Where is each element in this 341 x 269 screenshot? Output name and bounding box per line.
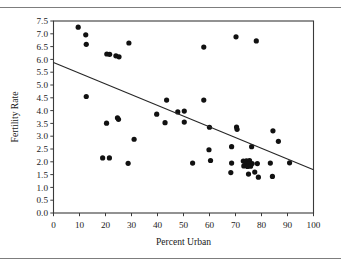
data-point [76, 25, 81, 30]
bottom-horizontal-rule [0, 258, 341, 259]
data-point [229, 160, 234, 165]
data-point [276, 139, 281, 144]
x-tick-label: 100 [307, 220, 321, 230]
data-point [246, 171, 251, 176]
data-point [116, 117, 121, 122]
data-point [104, 121, 109, 126]
data-point [233, 34, 238, 39]
x-tick-label: 40 [153, 220, 163, 230]
data-point [84, 94, 89, 99]
plot-frame [54, 21, 314, 213]
data-points-group [76, 25, 293, 180]
data-point [234, 127, 239, 132]
y-tick-label: 7.0 [37, 29, 49, 39]
data-point [107, 52, 112, 57]
y-tick-label: 4.0 [37, 106, 49, 116]
data-point [162, 120, 167, 125]
data-point [268, 160, 273, 165]
regression-line [54, 62, 314, 169]
y-tick-label: 2.5 [37, 144, 49, 154]
data-point [229, 144, 234, 149]
y-tick-label: 7.5 [37, 16, 49, 26]
plot-axes [50, 21, 313, 216]
x-tick-label: 70 [231, 220, 241, 230]
data-point [206, 147, 211, 152]
y-tick-label: 3.5 [37, 119, 49, 129]
y-tick-label: 1.0 [37, 183, 49, 193]
data-point [182, 109, 187, 114]
data-point [182, 120, 187, 125]
y-tick-label: 2.0 [37, 157, 49, 167]
data-point [201, 45, 206, 50]
data-point [270, 174, 275, 179]
data-point [107, 155, 112, 160]
y-tick-label: 0.5 [37, 195, 49, 205]
data-point [201, 98, 206, 103]
y-tick-label: 6.0 [37, 55, 49, 65]
data-point [126, 40, 131, 45]
data-point [126, 161, 131, 166]
trendline-group [54, 62, 314, 169]
x-axis-title: Percent Urban [156, 236, 211, 247]
data-point [270, 128, 275, 133]
data-point [84, 42, 89, 47]
data-point [190, 160, 195, 165]
faded-caption-text [34, 0, 324, 7]
scatter-plot: 0.00.51.01.52.02.53.03.54.04.55.05.56.06… [0, 10, 341, 256]
data-point [132, 137, 137, 142]
y-tick-label: 4.5 [37, 93, 49, 103]
x-tick-label: 20 [101, 220, 111, 230]
data-point [164, 98, 169, 103]
y-tick-label: 0.0 [37, 208, 49, 218]
data-point [228, 170, 233, 175]
data-point [254, 38, 259, 43]
x-tick-label: 30 [127, 220, 137, 230]
data-point [255, 161, 260, 166]
y-tick-label: 3.0 [37, 131, 49, 141]
data-point [248, 164, 253, 169]
data-point [116, 54, 121, 59]
data-point [100, 155, 105, 160]
y-tick-label: 1.5 [37, 170, 49, 180]
data-point [252, 169, 257, 174]
x-tick-label: 60 [205, 220, 215, 230]
x-tick-label: 80 [257, 220, 267, 230]
x-tick-label: 50 [179, 220, 189, 230]
figure-container: 0.00.51.01.52.02.53.03.54.04.55.05.56.06… [0, 0, 341, 269]
x-tick-label: 10 [75, 220, 85, 230]
y-axis-title: Fertility Rate [9, 92, 20, 143]
top-horizontal-rule [0, 7, 341, 8]
y-tick-label: 5.5 [37, 67, 49, 77]
data-point [154, 112, 159, 117]
data-point [208, 158, 213, 163]
y-tick-label: 6.5 [37, 42, 49, 52]
y-tick-label: 5.0 [37, 80, 49, 90]
x-tick-label: 0 [51, 220, 56, 230]
x-tick-label: 90 [283, 220, 293, 230]
data-point [256, 175, 261, 180]
data-point [83, 32, 88, 37]
